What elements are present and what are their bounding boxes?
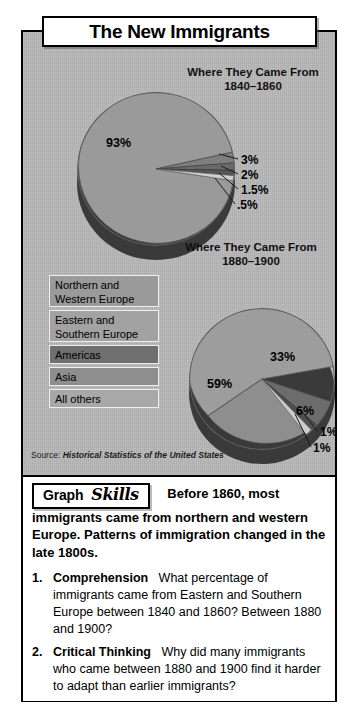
question-1: 1. Comprehension What percentage of immi… [32, 570, 326, 638]
question-2-label: Critical Thinking [53, 645, 158, 659]
source-prefix: Source: [31, 450, 63, 460]
legend-item-northern-western: Northern and Western Europe [49, 275, 159, 307]
chart-2-heading-line1: Where They Came From [171, 240, 331, 254]
legend-item-all-others: All others [49, 389, 159, 408]
pie-1-label-2: 2% [241, 168, 258, 182]
graph-skills-section: GraphSkills Before 1860, most immigrants… [23, 477, 335, 701]
legend-label-americas: Americas [55, 349, 101, 361]
pie-2-label-6: 6% [296, 404, 314, 418]
chart-2-heading-line2: 1880–1900 [171, 254, 331, 268]
graph-skills-badge-word2: Skills [91, 485, 138, 504]
source-note: Source: Historical Statistics of the Uni… [31, 450, 224, 460]
chart-1-heading-line2: 1840–1860 [173, 79, 333, 93]
pie-2-label-33: 33% [270, 350, 295, 364]
question-1-number: 1. [32, 570, 42, 587]
chart-1-heading-line1: Where They Came From [173, 65, 333, 79]
pie-1-label-0-5: .5% [237, 198, 258, 212]
legend-item-asia: Asia [49, 367, 159, 386]
graph-skills-intro: GraphSkills Before 1860, most immigrants… [32, 483, 326, 561]
pie-2-label-1-all-others: 1% [313, 441, 330, 455]
legend-label-asia: Asia [55, 371, 76, 383]
chart-1-heading: Where They Came From 1840–1860 [173, 65, 333, 93]
legend-label-all-others: All others [55, 393, 101, 405]
chart-2-heading: Where They Came From 1880–1900 [171, 240, 331, 268]
graph-skills-question-list: 1. Comprehension What percentage of immi… [32, 570, 326, 695]
page-title: The New Immigrants [42, 16, 317, 47]
figure-container: Where They Came From 1840–1860 Where The… [21, 30, 337, 702]
charts-panel: Where They Came From 1840–1860 Where The… [23, 32, 335, 475]
pie-2-label-59: 59% [207, 377, 232, 391]
question-2-number: 2. [32, 644, 42, 661]
graph-skills-badge-word1: Graph [43, 487, 83, 503]
pie-1-svg [77, 92, 235, 246]
legend-label-northern-western: Northern and Western Europe [55, 279, 134, 305]
pie-1-label-3: 3% [241, 153, 258, 167]
pie-1-label-1-5: 1.5% [241, 183, 268, 197]
question-2: 2. Critical Thinking Why did many immigr… [32, 644, 326, 695]
chart-legend: Northern and Western Europe Eastern and … [49, 275, 159, 411]
graph-skills-badge: GraphSkills [32, 483, 150, 509]
legend-label-eastern-southern: Eastern and Southern Europe [55, 314, 138, 340]
source-title: Historical Statistics of the United Stat… [63, 450, 224, 460]
question-1-label: Comprehension [53, 571, 155, 585]
pie-1-label-93: 93% [106, 136, 131, 150]
page-title-text: The New Immigrants [89, 21, 269, 43]
pie-1-face [77, 92, 235, 246]
legend-item-eastern-southern: Eastern and Southern Europe [49, 310, 159, 342]
pie-2-label-1-asia: 1% [320, 425, 335, 439]
legend-item-americas: Americas [49, 345, 159, 364]
